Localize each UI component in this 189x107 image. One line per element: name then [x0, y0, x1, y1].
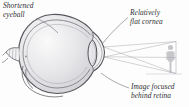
lens [88, 40, 97, 67]
optic-nerve [2, 47, 19, 62]
label-flat-cornea: Relatively flat cornea [130, 9, 163, 26]
label-shortened-eyeball-line2: eyeball [3, 11, 33, 20]
eyeball-cross-section [19, 14, 94, 93]
label-image-focused: Image focused behind retina [131, 83, 175, 100]
leader-flat-cornea [103, 18, 128, 44]
leader-image-focused [101, 73, 129, 88]
label-shortened-eyeball: Shortened eyeball [3, 2, 33, 19]
label-flat-cornea-line2: flat cornea [130, 18, 163, 27]
hyperopia-eye-diagram: Shortened eyeball Relatively flat cornea… [0, 0, 189, 107]
label-image-focused-line2: behind retina [131, 92, 175, 101]
focal-point-behind-retina [25, 56, 27, 58]
